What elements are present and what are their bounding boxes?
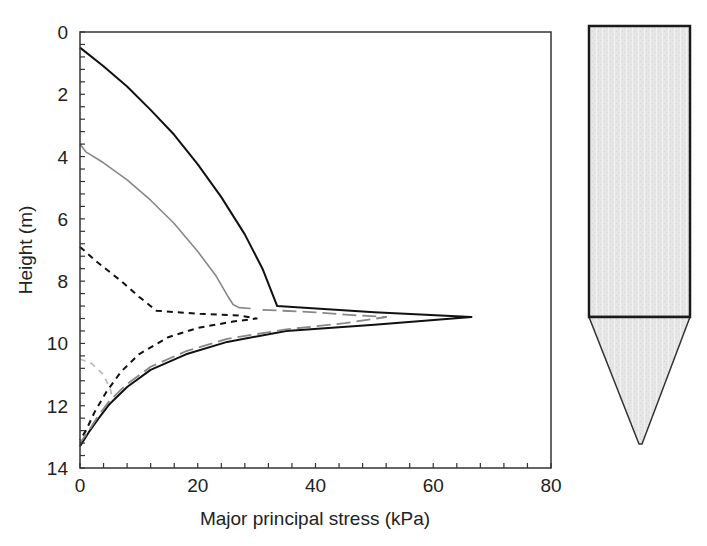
y-axis-title: Height (m)	[15, 206, 36, 295]
series-layer	[80, 48, 472, 447]
axes-layer: 02040608002468101214	[47, 22, 562, 496]
y-tick-label: 6	[57, 209, 68, 230]
series-long-dash-gray	[80, 310, 386, 443]
x-tick-label: 40	[305, 475, 326, 496]
x-tick-label: 80	[540, 475, 561, 496]
silo-hopper	[589, 317, 690, 444]
silo-schematic	[589, 26, 690, 444]
series-short-dash-black	[80, 247, 257, 440]
silo-bin	[589, 26, 690, 317]
x-tick-label: 20	[187, 475, 208, 496]
x-axis-title: Major principal stress (kPa)	[200, 508, 430, 529]
y-tick-label: 10	[47, 333, 68, 354]
x-tick-label: 0	[75, 475, 86, 496]
series-solid-gray	[80, 144, 251, 308]
y-tick-label: 12	[47, 396, 68, 417]
y-tick-label: 4	[57, 147, 68, 168]
y-tick-label: 2	[57, 84, 68, 105]
y-tick-label: 14	[47, 458, 69, 479]
y-tick-label: 0	[57, 22, 68, 43]
series-solid-black	[80, 48, 472, 447]
y-tick-label: 8	[57, 271, 68, 292]
x-tick-label: 60	[423, 475, 444, 496]
plot-frame	[80, 32, 551, 468]
stress-height-chart: 02040608002468101214 Major principal str…	[0, 0, 707, 546]
